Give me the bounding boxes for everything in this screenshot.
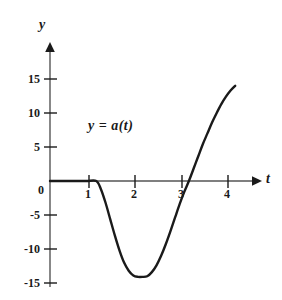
y-tick-label-minus-15: -15	[4, 277, 40, 289]
y-axis-arrowhead	[45, 42, 55, 52]
y-tick-label-minus-5: -5	[8, 209, 40, 221]
y-axis-label: y	[39, 18, 45, 32]
x-axis-arrowhead	[252, 176, 262, 186]
curve-equation-label: y = a(t)	[88, 119, 133, 133]
y-tick-label-15: 15	[10, 73, 40, 85]
x-tick-label-1: 1	[85, 188, 91, 200]
origin-label: 0	[38, 184, 44, 196]
y-tick-label-5: 5	[10, 141, 40, 153]
y-tick-label-10: 10	[10, 107, 40, 119]
y-tick-label-minus-10: -10	[4, 243, 40, 255]
x-tick-label-4: 4	[224, 188, 230, 200]
graph-figure: y t 0 15 10 5 -5 -10 -15 1 2 3 4 y = a(t…	[0, 0, 282, 300]
plot-canvas	[0, 0, 282, 300]
x-tick-label-2: 2	[131, 188, 137, 200]
x-tick-label-3: 3	[178, 188, 184, 200]
x-axis-label: t	[266, 172, 270, 186]
